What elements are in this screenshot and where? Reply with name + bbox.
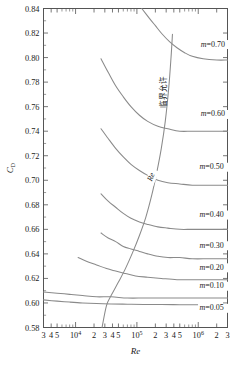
x-tick-label: 104	[70, 330, 81, 340]
y-tick-label: 0.60	[25, 299, 40, 308]
y-tick-label: 0.76	[25, 103, 40, 112]
x-tick-label: 3	[41, 331, 45, 340]
x-tick-exponent: 6	[201, 330, 204, 336]
series-label-value: =0.05	[205, 303, 224, 312]
series-label-value: =0.70	[207, 40, 226, 49]
x-tick-label: 2	[92, 331, 96, 340]
x-tick-label: 5	[55, 331, 59, 340]
x-tick-label: 4	[110, 331, 115, 340]
critical-annotation: 临界允许	[158, 76, 168, 108]
x-tick-label: 3	[164, 331, 168, 340]
y-tick-label: 0.64	[25, 250, 40, 259]
x-tick-label: 3	[225, 331, 229, 340]
series-label-value: =0.40	[205, 210, 224, 219]
y-axis: 0.580.600.620.640.660.680.700.720.740.76…	[25, 5, 228, 333]
x-tick-label: 5	[178, 331, 182, 340]
x-tick-label: 2	[153, 331, 157, 340]
series-label-value: =0.10	[205, 281, 224, 290]
x-tick-label: 5	[116, 331, 120, 340]
series-label-value: =0.60	[207, 109, 226, 118]
y-axis-title: CD	[5, 162, 16, 173]
y-tick-label: 0.58	[25, 324, 40, 333]
y-tick-label: 0.72	[25, 152, 40, 161]
x-tick-label: 4	[172, 331, 177, 340]
series-label-0.5: m=0.50	[200, 162, 224, 171]
x-tick-label: 105	[131, 330, 142, 340]
y-tick-label: 0.74	[25, 127, 40, 136]
critical-annotation-group: 临界允许	[158, 76, 168, 108]
y-axis-title-subscript: D	[10, 162, 16, 167]
curve-0.1	[44, 292, 228, 298]
y-tick-label: 0.84	[25, 5, 40, 14]
series-label-value: =0.30	[205, 241, 224, 250]
figure-container: 0.580.600.620.640.660.680.700.720.740.76…	[0, 0, 235, 373]
curve-0.7	[142, 9, 228, 61]
x-tick-label: 106	[193, 330, 204, 340]
y-tick-label: 0.80	[25, 54, 40, 63]
x-tick-label: 2	[215, 331, 219, 340]
x-tick-exponent: 4	[78, 330, 81, 336]
y-tick-label: 0.68	[25, 201, 40, 210]
series-label-0.7: m=0.70	[201, 40, 225, 49]
y-tick-label: 0.70	[25, 176, 40, 185]
x-tick-label: 4	[49, 331, 54, 340]
x-tick-exponent: 5	[140, 330, 143, 336]
y-axis-title-group: CD	[5, 162, 16, 173]
series-label-value: =0.20	[205, 263, 224, 272]
series-label-0.05: m=0.05	[200, 303, 224, 312]
x-tick-label: 3	[103, 331, 107, 340]
y-tick-label: 0.66	[25, 225, 40, 234]
y-tick-label: 0.82	[25, 29, 40, 38]
series-label-0.1: m=0.10	[200, 281, 224, 290]
series-label-0.2: m=0.20	[200, 263, 224, 272]
y-tick-label: 0.78	[25, 78, 40, 87]
series-label-value: =0.50	[205, 162, 224, 171]
series-label-0.6: m=0.60	[201, 109, 225, 118]
series-label-0.4: m=0.40	[200, 210, 224, 219]
curve-0.5	[101, 129, 227, 186]
y-tick-label: 0.62	[25, 274, 40, 283]
x-axis-title: Re	[130, 346, 141, 356]
series-label-0.3: m=0.30	[200, 241, 224, 250]
chart-svg: 0.580.600.620.640.660.680.700.720.740.76…	[0, 0, 235, 373]
